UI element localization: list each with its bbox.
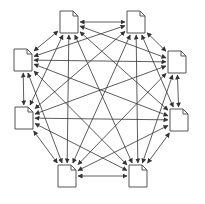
edges <box>23 22 178 176</box>
document-icon <box>129 165 147 187</box>
edge-arrow <box>34 31 58 51</box>
edge-arrow <box>78 126 168 171</box>
edge-arrow <box>23 73 24 105</box>
nodes <box>14 11 188 187</box>
document-icon <box>170 109 188 131</box>
edge-arrow <box>34 131 58 163</box>
edge-arrow <box>35 118 168 120</box>
edge-arrow <box>34 60 166 62</box>
edge-arrow <box>73 35 130 163</box>
edge-arrow <box>80 26 166 58</box>
diagram-canvas <box>0 0 205 204</box>
document-icon <box>60 11 78 33</box>
document-icon <box>15 107 33 129</box>
document-icon <box>58 165 76 187</box>
network-diagram <box>0 0 205 204</box>
edge-arrow <box>35 124 127 171</box>
document-icon <box>14 49 32 71</box>
edge-arrow <box>136 35 138 163</box>
document-icon <box>127 11 145 33</box>
edge-arrow <box>67 35 69 163</box>
edge-arrow <box>34 26 125 57</box>
edge-arrow <box>30 35 63 105</box>
document-icon <box>168 51 186 73</box>
edge-arrow <box>177 75 178 107</box>
edge-arrow <box>34 64 168 116</box>
edge-arrow <box>147 33 166 52</box>
